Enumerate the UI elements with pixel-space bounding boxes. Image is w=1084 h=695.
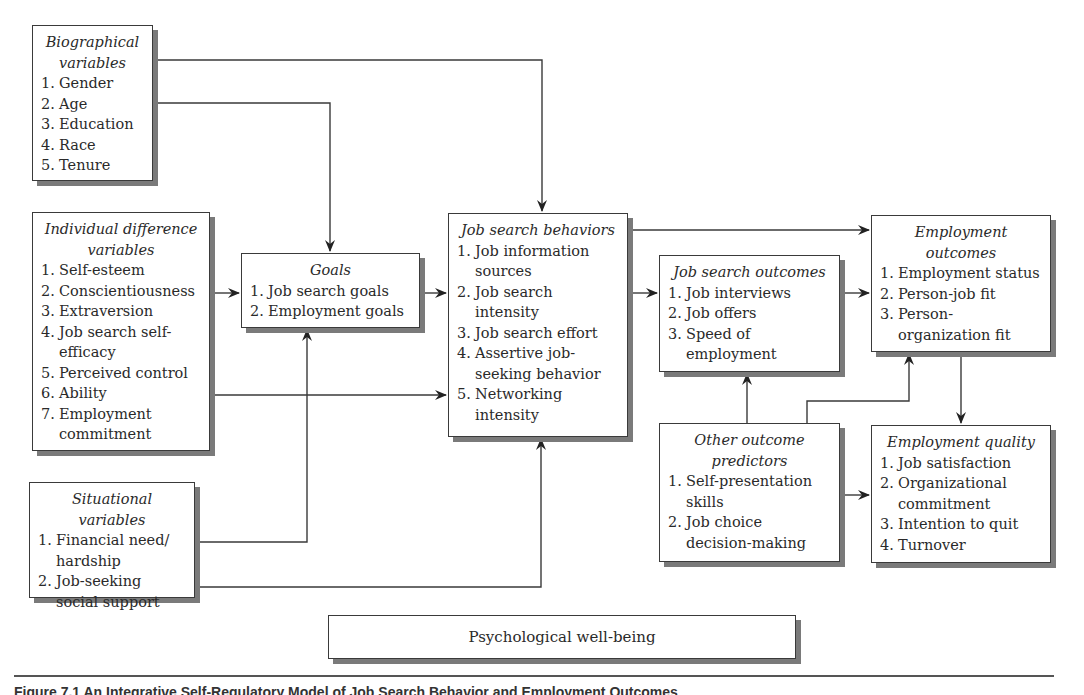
item-text: Job interviews <box>686 283 831 304</box>
box-title: Biographical variables <box>41 32 144 73</box>
item-number: 4. <box>880 535 898 556</box>
list-item: 4.Turnover <box>880 535 1042 556</box>
box-other-outcome-predictors: Other outcome predictors 1.Self-presenta… <box>659 423 840 562</box>
item-number: 3. <box>880 304 898 345</box>
list-item: 5.Perceived control <box>41 363 201 384</box>
item-text: Self-esteem <box>59 260 201 281</box>
item-text: Job search intensity <box>475 282 619 323</box>
item-text: Person-job fit <box>898 284 1042 305</box>
list-item: 3.Intention to quit <box>880 514 1042 535</box>
item-number: 1. <box>457 241 475 282</box>
item-number: 1. <box>250 281 268 302</box>
item-list: 1.Financial need/ hardship 2.Job-seeking… <box>38 530 186 612</box>
item-number: 2. <box>880 284 898 305</box>
item-number: 2. <box>880 473 898 514</box>
list-item: 3.Job search effort <box>457 323 619 344</box>
figure-caption: Figure 7.1 An Integrative Self-Regulator… <box>14 684 678 695</box>
item-number: 3. <box>41 301 59 322</box>
item-number: 2. <box>457 282 475 323</box>
item-list: 1.Job information sources 2.Job search i… <box>457 241 619 426</box>
list-item: 2.Employment goals <box>250 301 411 322</box>
item-text: Job search self-efficacy <box>59 322 201 363</box>
item-list: 1.Employment status 2.Person-job fit 3.P… <box>880 263 1042 345</box>
box-title: Psychological well-being <box>468 628 655 646</box>
list-item: 2.Conscientiousness <box>41 281 201 302</box>
item-text: Job offers <box>686 303 831 324</box>
box-title: Individual difference variables <box>41 219 201 260</box>
item-list: 1.Job search goals 2.Employment goals <box>250 281 411 322</box>
list-item: 1.Job information sources <box>457 241 619 282</box>
item-text: Financial need/ hardship <box>56 530 186 571</box>
item-text: Turnover <box>898 535 1042 556</box>
divider-rule <box>14 675 1054 677</box>
list-item: 7.Employment commitment <box>41 404 201 445</box>
item-number: 5. <box>41 363 59 384</box>
item-number: 2. <box>41 281 59 302</box>
box-title: Job search behaviors <box>457 220 619 241</box>
list-item: 1.Financial need/ hardship <box>38 530 186 571</box>
box-goals: Goals 1.Job search goals 2.Employment go… <box>241 253 420 328</box>
box-title: Other outcome predictors <box>668 430 831 471</box>
item-number: 1. <box>41 73 59 94</box>
list-item: 1.Job search goals <box>250 281 411 302</box>
item-number: 3. <box>41 114 59 135</box>
box-psychological-well-being: Psychological well-being <box>328 615 796 659</box>
item-number: 5. <box>41 155 59 176</box>
list-item: 3.Person-organization fit <box>880 304 1042 345</box>
list-item: 2.Age <box>41 94 144 115</box>
item-list: 1.Self-presentation skills 2.Job choice … <box>668 471 831 553</box>
item-number: 2. <box>38 571 56 612</box>
item-text: Organizational commitment <box>898 473 1042 514</box>
list-item: 2.Job choice decision-making <box>668 512 831 553</box>
item-number: 3. <box>668 324 686 365</box>
list-item: 1.Job satisfaction <box>880 453 1042 474</box>
item-number: 3. <box>880 514 898 535</box>
list-item: 1.Self-presentation skills <box>668 471 831 512</box>
item-number: 3. <box>457 323 475 344</box>
box-individual-difference-variables: Individual difference variables 1.Self-e… <box>32 212 210 451</box>
box-title: Situational variables <box>38 489 186 530</box>
list-item: 2.Job-seeking social support <box>38 571 186 612</box>
list-item: 4.Assertive job-seeking behavior <box>457 343 619 384</box>
list-item: 6.Ability <box>41 383 201 404</box>
box-employment-outcomes: Employment outcomes 1.Employment status … <box>871 215 1051 352</box>
box-title: Job search outcomes <box>668 262 831 283</box>
list-item: 2.Organizational commitment <box>880 473 1042 514</box>
list-item: 2.Job search intensity <box>457 282 619 323</box>
item-text: Job satisfaction <box>898 453 1042 474</box>
list-item: 4.Job search self-efficacy <box>41 322 201 363</box>
item-number: 1. <box>668 471 686 512</box>
item-text: Person-organization fit <box>898 304 1042 345</box>
item-text: Race <box>59 135 144 156</box>
box-title: Goals <box>250 260 411 281</box>
list-item: 3.Education <box>41 114 144 135</box>
item-text: Tenure <box>59 155 144 176</box>
item-number: 5. <box>457 384 475 425</box>
box-job-search-behaviors: Job search behaviors 1.Job information s… <box>448 213 628 437</box>
item-number: 7. <box>41 404 59 445</box>
item-text: Conscientiousness <box>59 281 201 302</box>
item-number: 2. <box>41 94 59 115</box>
item-text: Job search effort <box>475 323 619 344</box>
item-text: Job search goals <box>268 281 411 302</box>
list-item: 3.Extraversion <box>41 301 201 322</box>
list-item: 2.Job offers <box>668 303 831 324</box>
item-number: 4. <box>41 135 59 156</box>
item-text: Education <box>59 114 144 135</box>
box-title: Employment quality <box>880 432 1042 453</box>
item-number: 1. <box>880 263 898 284</box>
item-number: 6. <box>41 383 59 404</box>
item-text: Assertive job-seeking behavior <box>475 343 619 384</box>
item-text: Speed of employment <box>686 324 831 365</box>
item-text: Employment commitment <box>59 404 201 445</box>
list-item: 2.Person-job fit <box>880 284 1042 305</box>
item-number: 2. <box>668 303 686 324</box>
item-text: Networking intensity <box>475 384 619 425</box>
item-text: Employment status <box>898 263 1042 284</box>
box-biographical-variables: Biographical variables 1.Gender 2.Age 3.… <box>32 25 153 181</box>
item-number: 4. <box>41 322 59 363</box>
item-text: Employment goals <box>268 301 411 322</box>
item-number: 1. <box>38 530 56 571</box>
item-text: Intention to quit <box>898 514 1042 535</box>
list-item: 3.Speed of employment <box>668 324 831 365</box>
